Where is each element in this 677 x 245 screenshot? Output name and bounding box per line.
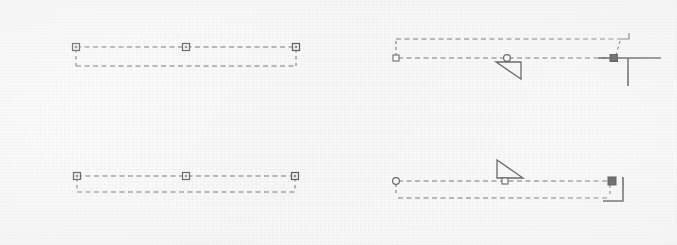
figure-bottom-left[interactable]	[74, 173, 299, 193]
node-mid[interactable]	[183, 44, 190, 51]
figure-top-right[interactable]	[393, 33, 661, 86]
upper-right-hook	[622, 33, 629, 39]
fixed-support-right	[598, 58, 661, 86]
figure-top-left[interactable]	[73, 44, 300, 67]
diagram-canvas: Dashed rectangular beam outline with thr…	[0, 0, 677, 245]
node-right[interactable]	[293, 44, 300, 51]
node-mid[interactable]	[504, 55, 511, 62]
right-vertical-drop	[616, 41, 620, 55]
node-right[interactable]	[292, 173, 299, 180]
node-right[interactable]	[608, 177, 616, 185]
node-left[interactable]	[74, 173, 81, 180]
node-mid[interactable]	[183, 173, 190, 180]
triangle-support-above[interactable]	[497, 160, 523, 178]
node-mid[interactable]	[502, 178, 508, 184]
node-left[interactable]	[393, 178, 400, 185]
figure-bottom-right[interactable]	[393, 160, 623, 201]
node-left[interactable]	[393, 55, 399, 61]
node-left[interactable]	[73, 44, 80, 51]
triangle-load-below[interactable]	[496, 62, 521, 79]
